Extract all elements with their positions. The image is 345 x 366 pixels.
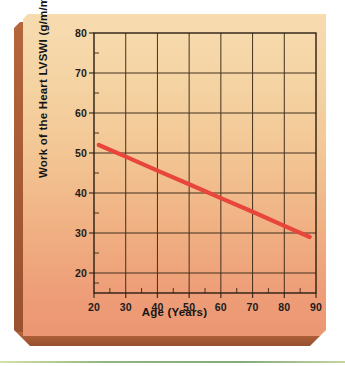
y-axis-title-wrapper: Work of the Heart LVSWI (g/m/m2) (33, 0, 51, 198)
page-bottom-rule (0, 361, 345, 363)
chart-canvas (23, 14, 326, 336)
series-line (99, 145, 310, 237)
chart-figure-3d-block: 20304050607080 2030405060708090 Age (Yea… (14, 14, 326, 346)
y-tick-label: 70 (51, 67, 87, 79)
y-tick-label: 60 (51, 107, 87, 119)
figure-page: 20304050607080 2030405060708090 Age (Yea… (0, 0, 345, 366)
plot-area: 20304050607080 2030405060708090 Age (Yea… (23, 14, 326, 336)
y-tick-label: 80 (51, 27, 87, 39)
data-series-group (99, 145, 310, 237)
chart-panel: 20304050607080 2030405060708090 Age (Yea… (23, 14, 326, 336)
y-tick-label: 50 (51, 147, 87, 159)
y-tick-label: 40 (51, 187, 87, 199)
y-axis-title: Work of the Heart LVSWI (g/m/m2) (35, 0, 49, 178)
grid-lines (94, 33, 316, 293)
x-axis-title: Age (Years) (23, 306, 326, 318)
y-tick-label: 20 (51, 267, 87, 279)
y-axis-title-text: Work of the Heart LVSWI (g/m/m (37, 0, 49, 178)
axis-frame (94, 33, 316, 293)
y-tick-label: 30 (51, 227, 87, 239)
